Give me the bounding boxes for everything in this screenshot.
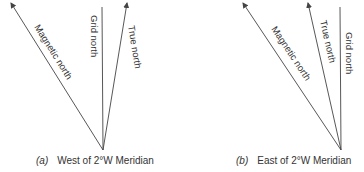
magnetic-north-label-a: Magnetic north (32, 22, 75, 81)
caption-b: (b)East of 2°W Meridian (236, 155, 351, 166)
grid-north-label-a: Grid north (89, 15, 100, 57)
panel-a: Magnetic north Grid north True north (11, 3, 144, 150)
north-diagram: Magnetic north Grid north True north Mag… (0, 0, 364, 172)
panel-b: Magnetic north True north Grid north (243, 3, 355, 150)
caption-b-text: East of 2°W Meridian (257, 155, 351, 166)
true-north-label-b: True north (318, 19, 338, 64)
true-north-line-a (103, 3, 127, 150)
caption-b-label: (b) (236, 155, 248, 166)
caption-a-label: (a) (36, 155, 48, 166)
grid-north-line-a (102, 7, 103, 150)
caption-a: (a)West of 2°W Meridian (36, 155, 154, 166)
true-north-label-a: True north (126, 25, 144, 70)
grid-north-label-b: Grid north (344, 32, 355, 74)
grid-north-line-b (340, 7, 341, 150)
caption-a-text: West of 2°W Meridian (57, 155, 154, 166)
